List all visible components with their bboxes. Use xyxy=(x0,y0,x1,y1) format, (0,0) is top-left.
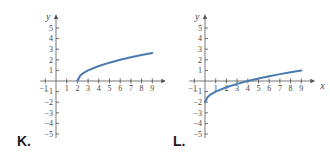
y-tick-label: 4 xyxy=(198,34,202,43)
y-axis-label: y xyxy=(194,11,200,22)
chart-l-plot: −112345678954321−1−2−3−4−5xy xyxy=(165,0,330,153)
curve-line xyxy=(77,53,152,81)
x-tick-label: 1 xyxy=(65,84,69,93)
chart-k-plot: −112345678954321−1−2−3−4−5xy xyxy=(0,0,165,153)
y-tick-label: 5 xyxy=(49,24,53,33)
y-tick-label: 3 xyxy=(198,45,202,54)
x-tick-label: 6 xyxy=(118,84,122,93)
y-tick-label: −4 xyxy=(44,119,53,128)
y-tick-label: −4 xyxy=(193,119,202,128)
y-tick-label: −1 xyxy=(193,87,202,96)
y-tick-label: 2 xyxy=(198,56,202,65)
y-tick-label: 4 xyxy=(49,34,53,43)
y-axis-label: y xyxy=(45,11,51,22)
chart-panel-l: −112345678954321−1−2−3−4−5xy L. xyxy=(165,0,330,153)
x-tick-label: 5 xyxy=(257,84,261,93)
y-tick-label: −5 xyxy=(44,130,53,139)
y-tick-label: −3 xyxy=(44,109,53,118)
y-tick-label: 1 xyxy=(198,66,202,75)
y-axis-arrow-icon xyxy=(54,14,58,19)
y-tick-label: 5 xyxy=(198,24,202,33)
y-tick-label: 3 xyxy=(49,45,53,54)
x-tick-label: 7 xyxy=(278,84,282,93)
x-tick-label: 7 xyxy=(129,84,133,93)
x-tick-label: 6 xyxy=(267,84,271,93)
chart-l-label: L. xyxy=(173,133,185,149)
x-axis-arrow-icon xyxy=(310,79,315,83)
x-tick-label: 3 xyxy=(86,84,90,93)
chart-k-label: K. xyxy=(17,133,31,149)
y-tick-label: 2 xyxy=(49,56,53,65)
y-tick-label: −2 xyxy=(44,98,53,107)
y-tick-label: −1 xyxy=(44,87,53,96)
x-tick-label: 4 xyxy=(97,84,101,93)
y-tick-label: −3 xyxy=(193,109,202,118)
x-tick-label: 9 xyxy=(150,84,154,93)
curve-line xyxy=(205,70,301,102)
x-tick-label: 8 xyxy=(289,84,293,93)
x-tick-label: 5 xyxy=(108,84,112,93)
y-tick-label: −2 xyxy=(193,98,202,107)
y-tick-label: −5 xyxy=(193,130,202,139)
x-axis-label: x xyxy=(319,80,325,91)
y-axis-arrow-icon xyxy=(203,14,207,19)
x-tick-label: 8 xyxy=(140,84,144,93)
x-tick-label: 2 xyxy=(75,84,79,93)
x-tick-label: 4 xyxy=(246,84,250,93)
chart-panel-k: −112345678954321−1−2−3−4−5xy K. xyxy=(0,0,165,153)
x-tick-label: 9 xyxy=(299,84,303,93)
y-tick-label: 1 xyxy=(49,66,53,75)
